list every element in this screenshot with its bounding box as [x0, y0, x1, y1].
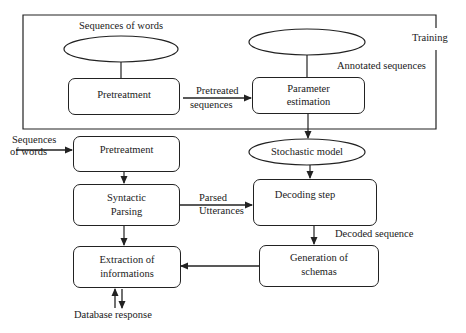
parameter-estimation-box: Parameter estimation: [252, 77, 365, 114]
syntactic-parsing-box: Syntactic Parsing: [73, 184, 180, 226]
extraction-label-2: informations: [74, 267, 180, 280]
input-words-ellipse: [64, 36, 178, 62]
decoding-pretreatment-label: Pretreatment: [74, 143, 179, 156]
extraction-label-1: Extraction of: [74, 253, 180, 266]
decoding-input-label-1: Sequences: [12, 134, 56, 146]
syntactic-label-1: Syntactic: [74, 191, 179, 204]
annotated-sequences-ellipse: [249, 29, 365, 55]
decoding-input-label-2: of words: [10, 146, 47, 158]
pretreated-edge-label-2: sequences: [190, 99, 233, 111]
generation-label-2: schemas: [260, 265, 378, 278]
training-label: Training: [412, 32, 448, 44]
extraction-informations-box: Extraction of informations: [73, 246, 181, 288]
training-pretreatment-label: Pretreatment: [69, 88, 179, 101]
decoding-step-box: Decoding step: [253, 179, 377, 226]
pretreated-edge-label-1: Pretreated: [196, 85, 239, 97]
training-pretreatment-box: Pretreatment: [68, 78, 180, 115]
database-response-label: Database response: [74, 309, 152, 321]
stochastic-model-label: Stochastic model: [249, 146, 365, 158]
annotated-sequences-label: Annotated sequences: [337, 60, 426, 72]
generation-label-1: Generation of: [260, 251, 378, 264]
parsed-edge-label-1: Parsed: [199, 192, 227, 204]
decoded-sequence-label: Decoded sequence: [335, 228, 413, 240]
syntactic-label-2: Parsing: [74, 205, 179, 218]
generation-schemas-box: Generation of schemas: [259, 245, 379, 287]
decoding-pretreatment-box: Pretreatment: [73, 136, 180, 172]
diagram-canvas: [0, 0, 466, 333]
parameter-label-1: Parameter: [253, 82, 364, 95]
parameter-label-2: estimation: [253, 95, 364, 108]
parsed-edge-label-2: Utterances: [199, 205, 244, 217]
input-words-label: Sequences of words: [79, 20, 163, 32]
decoding-step-label: Decoding step: [234, 188, 376, 201]
